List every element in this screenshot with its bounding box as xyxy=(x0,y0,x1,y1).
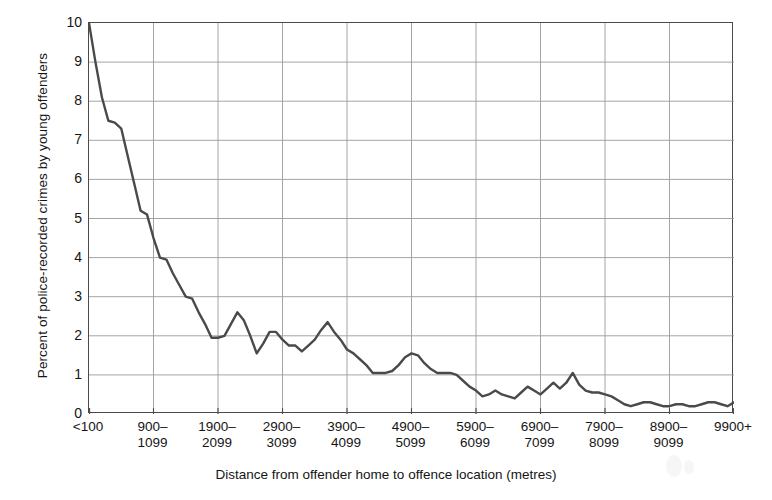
y-tick-label: 1 xyxy=(60,367,82,381)
x-tick-label: 3900– 4099 xyxy=(327,419,365,450)
chart-figure: Percent of police-recorded crimes by you… xyxy=(0,0,772,500)
y-tick-label: 8 xyxy=(60,93,82,107)
plot-area xyxy=(88,22,733,413)
y-tick-label: 4 xyxy=(60,250,82,264)
y-tick-label: 3 xyxy=(60,289,82,303)
x-axis-tick-labels: <100900– 10991900– 20992900– 30993900– 4… xyxy=(0,419,772,471)
x-axis-title: Distance from offender home to offence l… xyxy=(0,467,772,482)
x-tick-label: 1900– 2099 xyxy=(198,419,236,450)
x-tick-label: 8900– 9099 xyxy=(650,419,688,450)
y-tick-label: 10 xyxy=(60,15,82,29)
y-tick-label: 6 xyxy=(60,171,82,185)
x-tick-label: <100 xyxy=(73,419,103,435)
y-tick-label: 0 xyxy=(60,406,82,420)
x-tick-label: 4900– 5099 xyxy=(392,419,430,450)
gridlines xyxy=(89,23,734,414)
x-tick-label: 9900+ xyxy=(714,419,752,435)
x-tick-marks xyxy=(90,408,734,414)
y-tick-label: 2 xyxy=(60,328,82,342)
y-axis-title: Percent of police-recorded crimes by you… xyxy=(35,6,50,426)
series-canvas xyxy=(89,23,734,414)
y-tick-label: 7 xyxy=(60,132,82,146)
x-tick-label: 2900– 3099 xyxy=(263,419,301,450)
x-tick-label: 7900– 8099 xyxy=(585,419,623,450)
y-tick-label: 9 xyxy=(60,54,82,68)
x-tick-label: 6900– 7099 xyxy=(521,419,559,450)
y-tick-label: 5 xyxy=(60,211,82,225)
x-tick-label: 5900– 6099 xyxy=(456,419,494,450)
x-tick-label: 900– 1099 xyxy=(137,419,167,450)
